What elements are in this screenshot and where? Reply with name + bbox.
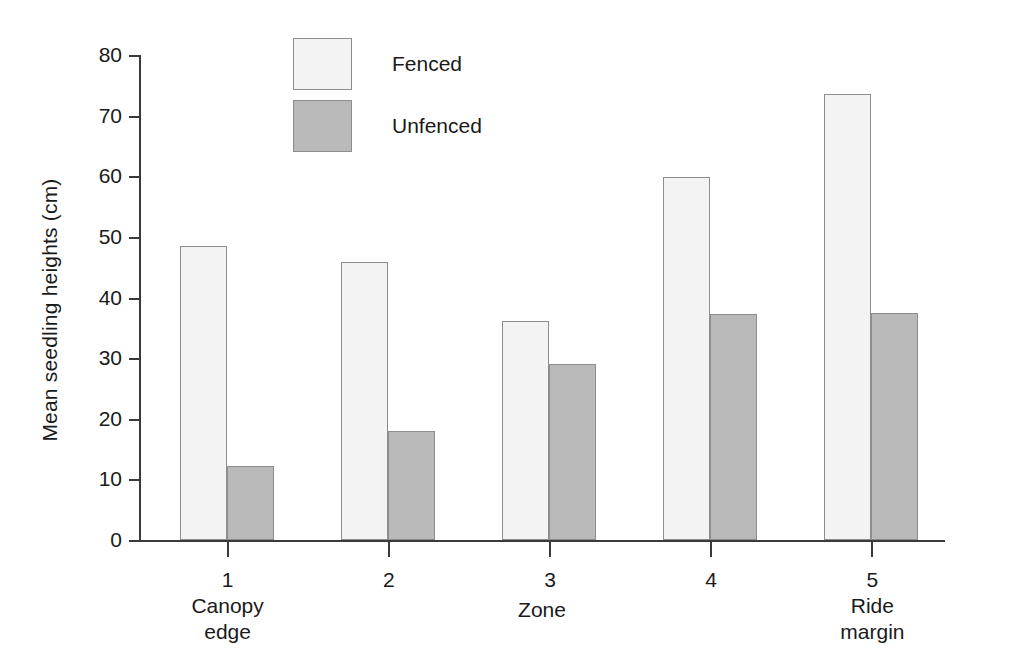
legend-swatch-fenced bbox=[293, 38, 352, 90]
bar-unfenced-zone-4 bbox=[710, 314, 757, 540]
x-axis-tick bbox=[549, 542, 551, 557]
legend-swatch-unfenced bbox=[293, 100, 352, 152]
y-axis-spine bbox=[139, 55, 141, 542]
bar-fenced-zone-5 bbox=[824, 94, 871, 540]
plot-area: 01020304050607080 1Canopyedge2345Ridemar… bbox=[139, 55, 945, 541]
bar-fenced-zone-2 bbox=[341, 262, 388, 540]
y-axis-tick-label: 40 bbox=[99, 286, 122, 310]
y-axis-tick: 60 bbox=[129, 176, 139, 178]
bar-unfenced-zone-3 bbox=[549, 364, 596, 540]
x-axis-tick-label: 3 bbox=[460, 567, 640, 593]
x-axis-tick bbox=[871, 542, 873, 557]
bar-unfenced-zone-2 bbox=[388, 431, 435, 540]
x-axis-tick bbox=[710, 542, 712, 557]
bar-unfenced-zone-1 bbox=[227, 466, 274, 540]
legend-item-fenced[interactable]: Fenced bbox=[293, 38, 462, 90]
y-axis-tick-label: 0 bbox=[110, 528, 122, 552]
bar-chart-figure: Mean seedling heights (cm) 0102030405060… bbox=[0, 0, 1009, 668]
x-axis-tick-label-group: 3 bbox=[460, 567, 640, 593]
bar-fenced-zone-3 bbox=[502, 321, 549, 540]
y-axis-tick-label: 20 bbox=[99, 407, 122, 431]
legend-label-fenced: Fenced bbox=[392, 52, 462, 76]
bar-fenced-zone-4 bbox=[663, 177, 710, 540]
y-axis-tick-label: 10 bbox=[99, 467, 122, 491]
y-axis-tick-label: 70 bbox=[99, 104, 122, 128]
y-axis-tick: 0 bbox=[129, 540, 139, 542]
y-axis-tick: 50 bbox=[129, 237, 139, 239]
x-axis-tick-label-group: 4 bbox=[621, 567, 801, 593]
bar-fenced-zone-1 bbox=[180, 246, 227, 540]
y-axis-tick: 80 bbox=[129, 55, 139, 57]
y-axis-tick: 20 bbox=[129, 419, 139, 421]
x-axis-spine bbox=[139, 540, 945, 542]
x-axis-tick-label: 5 bbox=[782, 567, 962, 593]
y-axis-title: Mean seedling heights (cm) bbox=[38, 110, 62, 510]
y-axis-tick: 30 bbox=[129, 358, 139, 360]
y-axis-tick: 10 bbox=[129, 479, 139, 481]
y-axis-tick: 40 bbox=[129, 298, 139, 300]
y-axis-tick-label: 50 bbox=[99, 225, 122, 249]
bar-unfenced-zone-5 bbox=[871, 313, 918, 540]
y-axis-tick: 70 bbox=[129, 116, 139, 118]
x-axis-tick-sublabel-line: margin bbox=[782, 619, 962, 645]
x-axis-tick-label: 2 bbox=[299, 567, 479, 593]
y-axis-tick-label: 80 bbox=[99, 43, 122, 67]
y-axis-tick-label: 60 bbox=[99, 164, 122, 188]
legend-item-unfenced[interactable]: Unfenced bbox=[293, 100, 482, 152]
x-axis-title: Zone bbox=[139, 598, 945, 622]
x-axis-tick bbox=[388, 542, 390, 557]
legend-label-unfenced: Unfenced bbox=[392, 114, 482, 138]
x-axis-tick-sublabel-line: edge bbox=[138, 619, 318, 645]
x-axis-tick-label: 4 bbox=[621, 567, 801, 593]
x-axis-tick-label: 1 bbox=[138, 567, 318, 593]
x-axis-tick-label-group: 2 bbox=[299, 567, 479, 593]
x-axis-tick bbox=[227, 542, 229, 557]
y-axis-tick-label: 30 bbox=[99, 346, 122, 370]
